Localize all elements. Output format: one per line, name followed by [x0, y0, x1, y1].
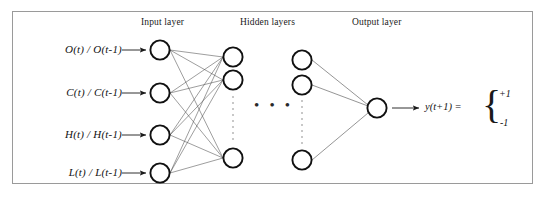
- hidden-layers-ellipsis: • • •: [254, 97, 293, 114]
- output-value-positive: +1: [499, 88, 511, 99]
- input-label-low: L(t) / L(t-1): [24, 166, 122, 178]
- input-label-close: C(t) / C(t-1): [24, 86, 122, 98]
- layer-label-output: Output layer: [352, 17, 402, 27]
- output-value-negative: -1: [500, 117, 508, 128]
- output-expression: y(t+1) =: [425, 101, 462, 112]
- input-label-high: H(t) / H(t-1): [24, 128, 122, 140]
- layer-label-input: Input layer: [141, 17, 184, 27]
- layer-label-hidden: Hidden layers: [240, 17, 295, 27]
- figure-root: Input layer Hidden layers Output layer O…: [0, 0, 553, 199]
- input-label-open: O(t) / O(t-1): [24, 43, 122, 55]
